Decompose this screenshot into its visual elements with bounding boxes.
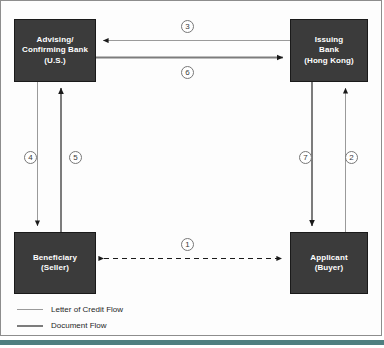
node-issuing-bank[interactable]: Issuing Bank (Hong Kong)	[290, 19, 368, 82]
node-issuing-line2: Bank	[319, 45, 339, 56]
step-badge-6: 6	[181, 66, 194, 79]
node-applicant-line1: Applicant	[310, 253, 347, 264]
diagram-canvas: Advising/ Confirming Bank (U.S.) Issuing…	[0, 0, 384, 348]
legend: Letter of Credit Flow Document Flow	[17, 303, 123, 335]
node-advising-confirming-bank[interactable]: Advising/ Confirming Bank (U.S.)	[14, 19, 96, 82]
node-advising-line1: Advising/	[37, 35, 74, 46]
node-beneficiary-line1: Beneficiary	[33, 253, 77, 264]
step-badge-3: 3	[181, 20, 194, 33]
node-applicant[interactable]: Applicant (Buyer)	[290, 232, 368, 294]
legend-item-letter-of-credit-flow: Letter of Credit Flow	[17, 303, 123, 316]
node-advising-line3: (U.S.)	[44, 56, 66, 67]
node-issuing-line1: Issuing	[315, 35, 344, 46]
step-badge-4: 4	[24, 151, 37, 164]
step-badge-7: 7	[299, 151, 312, 164]
legend-label-letter-of-credit-flow: Letter of Credit Flow	[51, 305, 123, 314]
node-beneficiary[interactable]: Beneficiary (Seller)	[14, 232, 96, 294]
step-badge-5: 5	[69, 151, 82, 164]
legend-swatch-thick-line-icon	[17, 325, 43, 327]
step-badge-1: 1	[181, 238, 194, 251]
legend-item-document-flow: Document Flow	[17, 319, 123, 332]
legend-swatch-thin-line-icon	[17, 309, 43, 310]
node-advising-line2: Confirming Bank	[22, 45, 88, 56]
node-applicant-line2: (Buyer)	[315, 263, 344, 274]
legend-label-document-flow: Document Flow	[51, 321, 107, 330]
node-issuing-line3: (Hong Kong)	[304, 56, 354, 67]
step-badge-2: 2	[345, 151, 358, 164]
node-beneficiary-line2: (Seller)	[41, 263, 69, 274]
